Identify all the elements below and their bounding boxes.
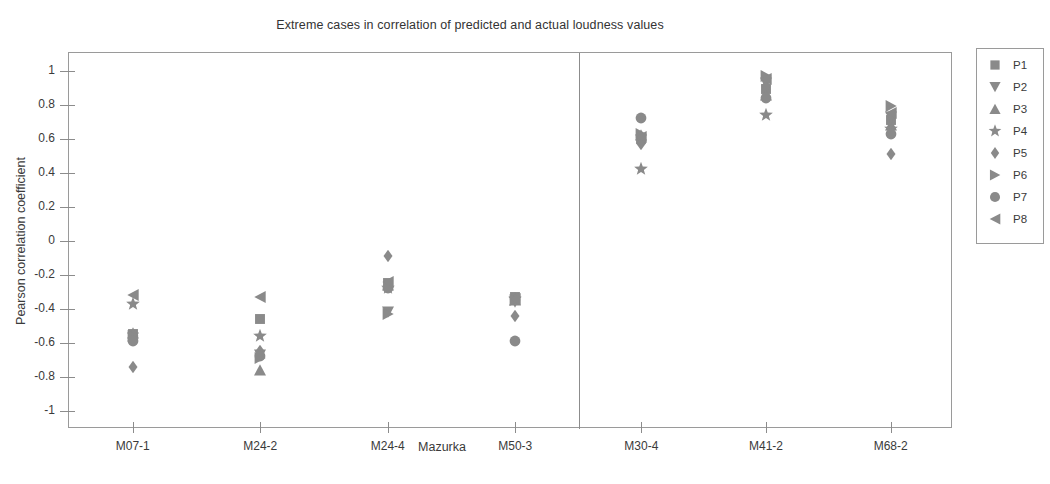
y-tick xyxy=(60,173,69,174)
legend-item-label: P1 xyxy=(1013,59,1027,71)
y-tick-inner xyxy=(69,139,75,140)
y-tick xyxy=(60,71,69,72)
y-tick xyxy=(60,139,69,140)
data-point xyxy=(759,72,774,91)
x-axis-title: Mazurka xyxy=(0,440,884,454)
x-tick xyxy=(260,427,261,433)
data-point xyxy=(125,288,140,307)
legend-item-p6[interactable]: P6 xyxy=(977,164,1043,186)
y-tick-inner xyxy=(69,105,75,106)
data-point xyxy=(508,334,523,353)
x-tick xyxy=(133,427,134,433)
star-marker-icon xyxy=(984,121,1006,141)
data-point xyxy=(380,306,395,325)
y-tick xyxy=(60,309,69,310)
x-tick xyxy=(891,427,892,433)
y-tick xyxy=(60,275,69,276)
y-tick-inner xyxy=(69,309,75,310)
legend-item-p5[interactable]: P5 xyxy=(977,142,1043,164)
legend-item-label: P6 xyxy=(1013,169,1027,181)
y-tick-inner xyxy=(69,411,75,412)
data-point xyxy=(634,111,649,130)
x-tick xyxy=(515,427,516,433)
data-point xyxy=(253,349,268,368)
y-tick xyxy=(60,377,69,378)
y-tick-inner xyxy=(69,241,75,242)
x-tick xyxy=(641,427,642,433)
triangle-down-marker-icon xyxy=(984,77,1006,97)
group-separator-line xyxy=(579,53,580,429)
legend-item-p8[interactable]: P8 xyxy=(977,208,1043,230)
chart-title: Extreme cases in correlation of predicte… xyxy=(0,18,940,32)
y-tick-label: -0.6 xyxy=(0,335,55,349)
legend-item-p3[interactable]: P3 xyxy=(977,98,1043,120)
x-tick-inner xyxy=(133,422,134,427)
data-point xyxy=(759,107,774,126)
data-point xyxy=(883,147,898,166)
legend-item-label: P8 xyxy=(1013,213,1027,225)
data-point xyxy=(125,334,140,353)
triangle-right-marker-icon xyxy=(984,165,1006,185)
data-point xyxy=(380,249,395,268)
y-axis-title: Pearson correlation coefficient xyxy=(14,157,28,325)
y-tick-inner xyxy=(69,71,75,72)
data-point xyxy=(125,359,140,378)
y-tick xyxy=(60,411,69,412)
x-tick xyxy=(766,427,767,433)
legend-item-p1[interactable]: P1 xyxy=(977,54,1043,76)
y-tick-label: 0.8 xyxy=(0,97,55,111)
data-point xyxy=(253,289,268,308)
data-point xyxy=(508,291,523,310)
x-tick xyxy=(388,427,389,433)
y-tick-label: 0.6 xyxy=(0,131,55,145)
data-point xyxy=(380,274,395,293)
square-marker-icon xyxy=(984,55,1006,75)
y-tick xyxy=(60,105,69,106)
data-point xyxy=(883,126,898,145)
data-point xyxy=(634,162,649,181)
y-tick-inner xyxy=(69,377,75,378)
x-tick-inner xyxy=(388,422,389,427)
triangle-left-marker-icon xyxy=(984,209,1006,229)
legend-item-label: P2 xyxy=(1013,81,1027,93)
x-tick-inner xyxy=(260,422,261,427)
y-tick xyxy=(60,241,69,242)
y-tick-label: -0.8 xyxy=(0,369,55,383)
legend-item-p4[interactable]: P4 xyxy=(977,120,1043,142)
x-tick-inner xyxy=(641,422,642,427)
diamond-marker-icon xyxy=(984,143,1006,163)
legend: P1P2P3P4P5P6P7P8 xyxy=(976,48,1044,244)
y-tick-inner xyxy=(69,275,75,276)
y-tick xyxy=(60,207,69,208)
x-tick-inner xyxy=(515,422,516,427)
legend-item-label: P4 xyxy=(1013,125,1027,137)
y-tick-label: 1 xyxy=(0,63,55,77)
legend-item-label: P3 xyxy=(1013,103,1027,115)
plot-area: 10.80.60.40.20-0.2-0.4-0.6-0.8-1 Pearson… xyxy=(68,52,952,428)
x-tick-inner xyxy=(766,422,767,427)
data-point xyxy=(759,90,774,109)
y-tick-inner xyxy=(69,207,75,208)
y-tick-label: -1 xyxy=(0,403,55,417)
circle-marker-icon xyxy=(984,187,1006,207)
triangle-up-marker-icon xyxy=(984,99,1006,119)
chart-figure: Extreme cases in correlation of predicte… xyxy=(0,0,1050,484)
data-point xyxy=(634,130,649,149)
y-tick-inner xyxy=(69,343,75,344)
y-tick xyxy=(60,343,69,344)
legend-item-label: P5 xyxy=(1013,147,1027,159)
y-tick-inner xyxy=(69,173,75,174)
data-point xyxy=(883,106,898,125)
legend-item-label: P7 xyxy=(1013,191,1027,203)
x-tick-inner xyxy=(891,422,892,427)
legend-item-p7[interactable]: P7 xyxy=(977,186,1043,208)
legend-item-p2[interactable]: P2 xyxy=(977,76,1043,98)
